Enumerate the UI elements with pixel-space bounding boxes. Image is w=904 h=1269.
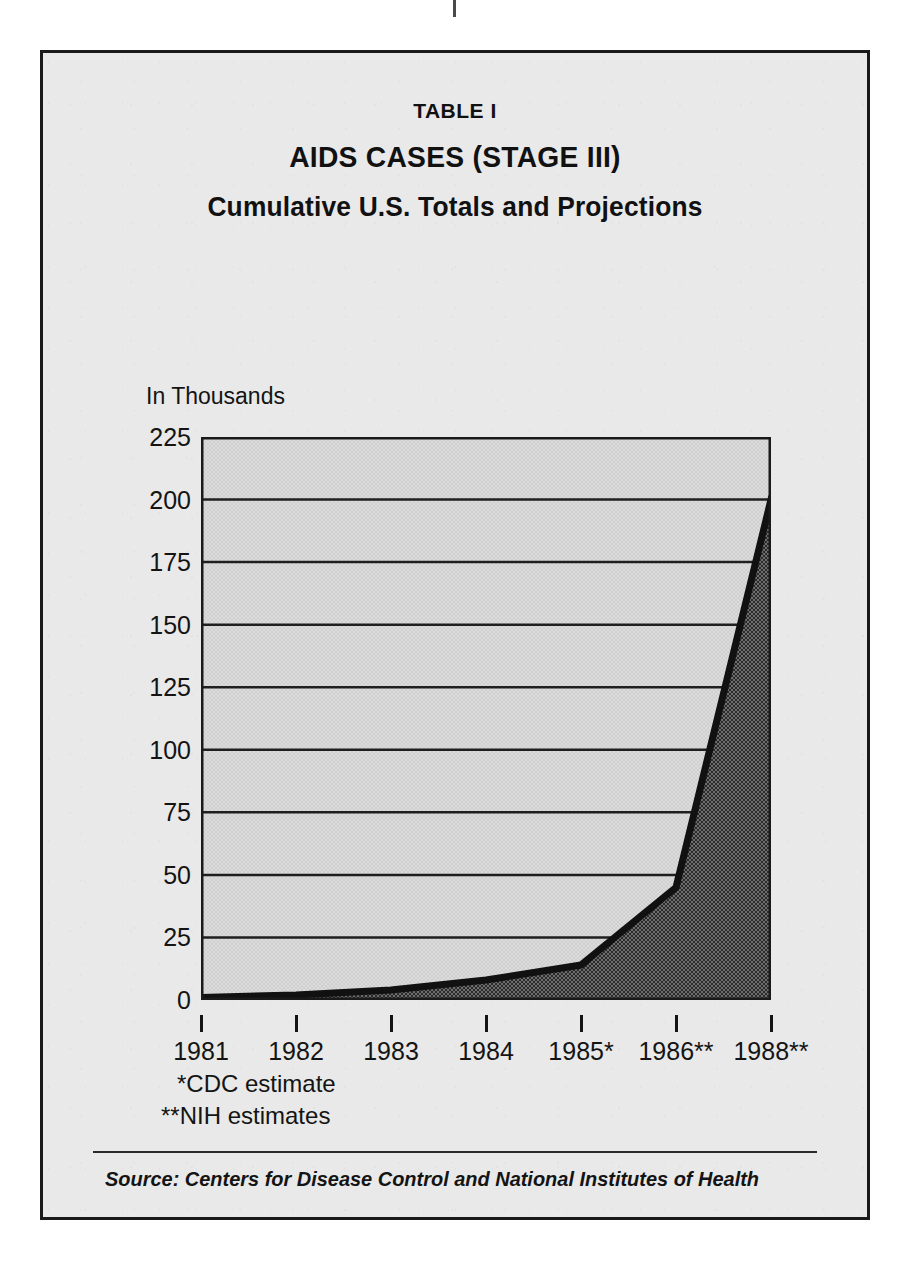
y-tick-label: 25 (163, 923, 191, 952)
x-tick-mark (390, 1015, 393, 1032)
x-tick-mark (295, 1015, 298, 1032)
x-tick-label: 1988** (733, 1037, 808, 1066)
y-tick-label: 50 (163, 860, 191, 889)
plot-area (201, 437, 771, 1000)
x-tick-label: 1986** (638, 1037, 713, 1066)
x-tick-label: 1983 (363, 1037, 419, 1066)
y-tick-label: 200 (149, 485, 191, 514)
source-divider (93, 1151, 817, 1153)
footnote-nih: **NIH estimates (161, 1100, 336, 1132)
footnote-cdc: *CDC estimate (177, 1068, 336, 1100)
y-tick-label: 225 (149, 423, 191, 452)
x-tick-mark (580, 1015, 583, 1032)
y-axis-caption: In Thousands (146, 383, 285, 410)
x-tick-label: 1981 (173, 1037, 229, 1066)
x-axis-tick-labels: 19811982198319841985*1986**1988** (43, 1015, 873, 1055)
plot-svg (201, 437, 771, 1000)
y-tick-label: 0 (177, 986, 191, 1015)
footnotes: *CDC estimate **NIH estimates (161, 1068, 336, 1131)
x-tick-mark (200, 1015, 203, 1032)
source-note: Source: Centers for Disease Control and … (105, 1167, 759, 1191)
x-tick-mark (485, 1015, 488, 1032)
scan-artifact-mark (453, 0, 456, 17)
y-tick-label: 150 (149, 610, 191, 639)
x-tick-label: 1985* (548, 1037, 613, 1066)
x-tick-mark (770, 1015, 773, 1032)
y-tick-label: 75 (163, 798, 191, 827)
y-axis-tick-labels: 0255075100125150175200225 (121, 437, 191, 1000)
y-tick-label: 125 (149, 673, 191, 702)
y-tick-label: 100 (149, 735, 191, 764)
y-tick-label: 175 (149, 548, 191, 577)
figure-panel: TABLE I AIDS CASES (STAGE III) Cumulativ… (40, 50, 870, 1220)
area-chart: In Thousands 0255075100125150175200225 (43, 53, 873, 1223)
x-tick-label: 1982 (268, 1037, 324, 1066)
x-tick-label: 1984 (458, 1037, 514, 1066)
x-tick-mark (675, 1015, 678, 1032)
